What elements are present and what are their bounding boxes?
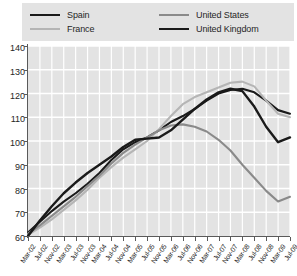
- y-axis-tick-label: 140: [1, 44, 25, 53]
- x-axis-tick-mark: [278, 237, 279, 241]
- x-axis-tick-mark: [135, 237, 136, 241]
- x-axis-tick-mark: [171, 237, 172, 241]
- x-axis-tick-mark: [111, 237, 112, 241]
- legend-item[interactable]: France: [30, 22, 159, 36]
- legend-label: France: [67, 24, 94, 34]
- y-axis-tick-mark: [24, 141, 28, 142]
- plot-wrapper: 60708090100110120130140 Mar-02Jul-02Nov-…: [0, 44, 297, 276]
- legend-item[interactable]: Spain: [30, 8, 159, 22]
- x-axis-tick-mark: [266, 237, 267, 241]
- series-line-spain: [28, 89, 290, 233]
- plot-area: [28, 46, 290, 236]
- legend-label: United Kingdom: [196, 24, 259, 34]
- x-axis-tick-mark: [183, 237, 184, 241]
- legend-label: Spain: [67, 10, 90, 20]
- y-axis-tick-mark: [24, 165, 28, 166]
- legend-swatch-france: [30, 28, 60, 30]
- legend-item[interactable]: United States: [159, 8, 288, 22]
- y-axis-tick-mark: [24, 117, 28, 118]
- chart-legend: SpainUnited StatesFranceUnited Kingdom: [22, 3, 294, 41]
- legend-swatch-spain: [30, 14, 60, 16]
- y-axis-tick-label: 70: [1, 210, 25, 219]
- series-line-france: [28, 82, 290, 235]
- y-axis-tick-mark: [24, 70, 28, 71]
- legend-label: United States: [196, 10, 249, 20]
- x-axis-tick-mark: [52, 237, 53, 241]
- x-axis-tick-mark: [99, 237, 100, 241]
- x-axis-tick-mark: [219, 237, 220, 241]
- y-axis-tick-label: 100: [1, 139, 25, 148]
- line-chart: SpainUnited StatesFranceUnited Kingdom 6…: [0, 0, 297, 276]
- y-axis-tick-label: 90: [1, 162, 25, 171]
- series-lines: [28, 46, 290, 236]
- x-axis-tick-mark: [195, 237, 196, 241]
- x-axis-tick-mark: [76, 237, 77, 241]
- x-axis-tick-mark: [88, 237, 89, 241]
- y-axis-tick-label: 120: [1, 91, 25, 100]
- x-axis-tick-mark: [230, 237, 231, 241]
- x-axis-tick-mark: [254, 237, 255, 241]
- y-axis-tick-label: 60: [1, 234, 25, 243]
- x-axis-tick-mark: [242, 237, 243, 241]
- y-axis-labels: 60708090100110120130140: [0, 46, 25, 236]
- y-axis-tick-label: 80: [1, 186, 25, 195]
- x-axis-tick-mark: [64, 237, 65, 241]
- legend-swatch-united-states: [159, 14, 189, 16]
- x-axis-tick-mark: [290, 237, 291, 241]
- series-line-united-kingdom: [28, 89, 290, 236]
- x-axis-tick-mark: [159, 237, 160, 241]
- legend-swatch-united-kingdom: [159, 28, 189, 30]
- legend-item[interactable]: United Kingdom: [159, 22, 288, 36]
- series-line-united-states: [28, 124, 290, 233]
- y-axis-tick-label: 130: [1, 67, 25, 76]
- x-axis-tick-mark: [28, 237, 29, 241]
- y-axis-tick-mark: [24, 189, 28, 190]
- y-axis-tick-mark: [24, 212, 28, 213]
- x-axis-tick-mark: [123, 237, 124, 241]
- y-axis-tick-label: 110: [1, 115, 25, 124]
- y-axis-tick-mark: [24, 46, 28, 47]
- x-axis-tick-mark: [147, 237, 148, 241]
- x-axis-tick-mark: [40, 237, 41, 241]
- x-axis-tick-mark: [207, 237, 208, 241]
- y-axis-tick-mark: [24, 94, 28, 95]
